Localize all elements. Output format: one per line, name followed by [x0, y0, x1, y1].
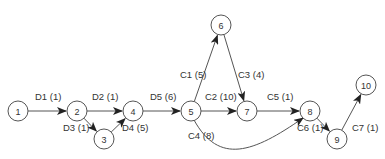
node-label: 2	[74, 107, 79, 117]
node-7: 7	[237, 101, 257, 121]
node-label: 10	[361, 81, 371, 91]
node-label: 6	[218, 21, 223, 31]
edge-label: D4 (5)	[122, 122, 148, 133]
node-label: 7	[244, 107, 249, 117]
edge-label: D2 (1)	[92, 91, 118, 102]
edge-label: C4 (8)	[188, 130, 214, 141]
node-8: 8	[300, 101, 320, 121]
node-label: 9	[334, 135, 339, 145]
node-label: 1	[15, 107, 20, 117]
node-label: 3	[101, 135, 106, 145]
node-label: 4	[130, 107, 135, 117]
node-1: 1	[8, 101, 28, 121]
edge-label: C5 (1)	[267, 91, 293, 102]
edge-label: C6 (1)	[297, 122, 323, 133]
edge-label: C7 (1)	[352, 122, 378, 133]
edge-labels-layer: D1 (1)D2 (1)D3 (1)D4 (5)D5 (6)C1 (5)C3 (…	[35, 69, 378, 141]
node-2: 2	[67, 101, 87, 121]
edge-label: C1 (5)	[180, 69, 206, 80]
node-3: 3	[94, 129, 114, 149]
edge-label: D3 (1)	[63, 122, 89, 133]
node-5: 5	[181, 101, 201, 121]
edge-label: D1 (1)	[35, 91, 61, 102]
node-9: 9	[327, 129, 347, 149]
node-10: 10	[356, 75, 376, 95]
node-label: 8	[307, 107, 312, 117]
edge-label: C3 (4)	[238, 69, 264, 80]
node-6: 6	[211, 15, 231, 35]
edge-label: C2 (10)	[205, 91, 237, 102]
node-label: 5	[188, 107, 193, 117]
node-4: 4	[123, 101, 143, 121]
network-diagram: D1 (1)D2 (1)D3 (1)D4 (5)D5 (6)C1 (5)C3 (…	[0, 0, 385, 159]
edge-label: D5 (6)	[150, 91, 176, 102]
